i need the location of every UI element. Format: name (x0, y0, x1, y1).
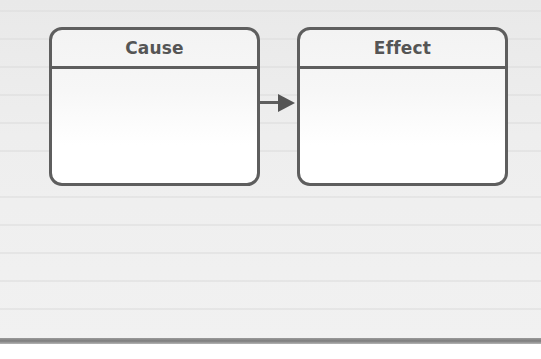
bleed-through-line (0, 280, 541, 282)
entity-header: Cause (52, 30, 257, 69)
entity-cause: Cause (49, 27, 260, 186)
entity-body (52, 69, 257, 183)
entity-header: Effect (300, 30, 505, 69)
page-edge-divider (0, 338, 541, 344)
bleed-through-line (0, 224, 541, 226)
entity-title: Effect (374, 38, 431, 58)
bleed-through-line (0, 308, 541, 310)
entity-title: Cause (125, 38, 184, 58)
bleed-through-line (0, 196, 541, 198)
arrowhead-icon (278, 94, 295, 112)
bleed-through-line (0, 252, 541, 254)
bleed-through-line (0, 10, 541, 12)
entity-body (300, 69, 505, 183)
entity-effect: Effect (297, 27, 508, 186)
